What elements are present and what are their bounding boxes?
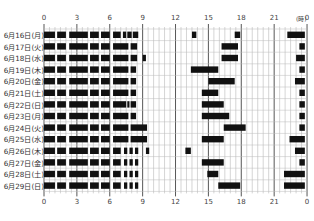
sleep-segment [124,159,127,165]
sleep-segment [90,124,99,130]
sleep-segment [101,66,110,72]
sleep-segment [299,124,304,130]
sleep-segment [90,66,99,72]
sleep-segment [192,32,196,38]
sleep-segment [113,113,128,119]
sleep-segment [299,66,304,72]
sleep-segment [185,148,190,154]
sleep-segment [44,101,55,107]
sleep-segment [131,90,136,96]
sleep-segment [124,182,127,188]
sleep-segment [131,43,138,49]
sleep-segment [90,136,99,142]
sleep-segment [135,148,138,154]
sleep-segment [299,159,304,165]
sleep-segment [57,159,66,165]
sleep-segment [218,182,240,188]
sleep-segment [135,182,138,188]
sleep-segment [129,182,132,188]
sleep-segment [124,171,127,177]
sleep-segment [113,148,121,154]
sleep-segment [69,182,88,188]
sleep-segment [44,90,55,96]
sleep-segment [44,43,55,49]
sleep-segment [123,32,126,38]
sleep-segment [101,32,110,38]
sleep-segment [101,90,110,96]
sleep-segment [57,55,66,61]
sleep-segment [113,101,126,107]
sleep-segment [57,182,66,188]
sleep-segment [57,136,66,142]
sleep-segment [90,113,99,119]
sleep-segment [57,171,66,177]
sleep-segment [131,136,147,142]
sleep-segment [129,159,132,165]
sleep-segment [57,66,66,72]
sleep-segment [90,148,99,154]
sleep-segment [57,113,66,119]
sleep-segment [113,171,121,177]
sleep-segment [284,182,305,188]
sleep-segment [57,90,66,96]
sleep-segment [191,66,218,72]
sleep-segment [44,66,55,72]
sleep-segment [113,43,128,49]
sleep-segment [202,90,218,96]
sleep-segment [69,78,88,84]
timeline-chart [0,0,314,221]
sleep-segment [299,101,304,107]
sleep-segment [69,32,88,38]
sleep-segment [57,78,66,84]
sleep-segment [90,101,99,107]
sleep-segment [284,171,305,177]
sleep-segment [222,55,238,61]
sleep-segment [44,32,55,38]
sleep-segment [57,32,66,38]
sleep-segment [299,43,304,49]
sleep-segment [202,113,229,119]
sleep-segment [101,148,110,154]
sleep-segment [69,136,88,142]
sleep-segment [113,55,128,61]
sleep-segment [90,32,99,38]
sleep-segment [69,43,88,49]
sleep-segment [113,32,121,38]
sleep-segment [129,171,132,177]
sleep-segment [69,101,88,107]
sleep-segment [101,43,110,49]
sleep-segment [143,55,146,61]
sleep-segment [208,78,234,84]
sleep-segment [57,101,66,107]
sleep-segment [113,136,128,142]
sleep-segment [113,78,128,84]
sleep-segment [295,78,305,84]
sleep-segment [224,124,246,130]
sleep-segment [127,32,131,38]
sleep-segment [44,78,55,84]
sleep-segment [44,55,55,61]
sleep-segment [124,148,127,154]
sleep-segment [90,171,99,177]
sleep-segment [131,113,136,119]
sleep-segment [90,78,99,84]
sleep-segment [101,124,110,130]
sleep-segment [295,148,305,154]
sleep-segment [44,171,55,177]
sleep-segment [101,171,110,177]
sleep-segment [299,113,304,119]
sleep-segment [90,43,99,49]
sleep-segment [69,124,88,130]
sleep-segment [90,182,99,188]
sleep-segment [207,171,218,177]
sleep-segment [44,113,55,119]
sleep-segment [101,101,110,107]
sleep-segment [44,136,55,142]
sleep-segment [69,159,88,165]
sleep-segment [127,101,129,107]
sleep-segment [101,136,110,142]
sleep-segment [101,159,110,165]
sleep-segment [57,43,66,49]
sleep-segment [113,182,121,188]
sleep-segment [57,148,66,154]
